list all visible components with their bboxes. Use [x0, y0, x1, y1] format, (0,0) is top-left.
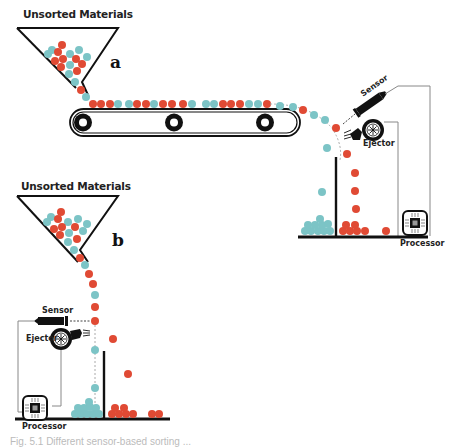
- processor-chip-icon: [23, 396, 47, 420]
- falling-stream-b: [85, 270, 132, 410]
- trajectory-a: [270, 102, 360, 213]
- panel-b-title: Unsorted Materials: [21, 180, 131, 192]
- hopper-icon: [17, 196, 118, 262]
- panel-b-processor-label: Processor: [22, 422, 66, 431]
- panel-a-title: Unsorted Materials: [23, 8, 133, 20]
- processor-chip-icon: [403, 211, 427, 235]
- sorted-red-pile: [339, 221, 390, 235]
- sensor-icon: [34, 316, 68, 326]
- conveyor-materials: [89, 100, 271, 108]
- panel-b-ejector-label: Ejector: [26, 334, 58, 343]
- conveyor-belt-icon: [70, 109, 300, 136]
- panel-a-ejector-label: Ejector: [363, 139, 395, 148]
- panel-a: [17, 28, 430, 237]
- panel-b: [15, 196, 170, 420]
- panel-a-processor-label: Processor: [400, 239, 444, 248]
- figure-caption: Fig. 5.1 Different sensor-based sorting …: [10, 436, 191, 447]
- hopper-materials: [44, 41, 91, 101]
- hopper-icon: [17, 28, 118, 95]
- hopper-materials: [43, 208, 91, 269]
- ejector-fan-icon: [344, 119, 384, 141]
- sorted-blue-pile: [301, 215, 334, 235]
- panel-b-sensor-label: Sensor: [42, 306, 73, 315]
- panel-b-letter: b: [112, 230, 124, 250]
- panel-a-letter: a: [110, 52, 121, 72]
- sorted-blue-pile: [71, 398, 103, 418]
- sorted-red-pile: [108, 404, 163, 418]
